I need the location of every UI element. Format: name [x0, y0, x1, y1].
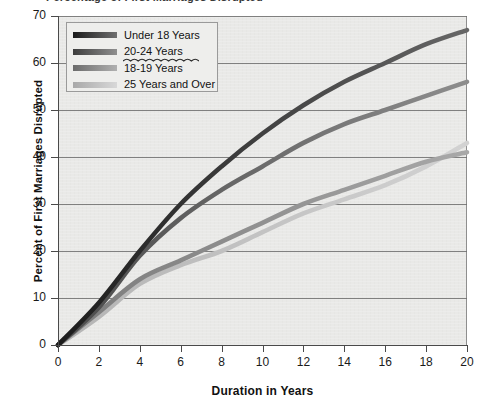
legend-label: 25 Years and Over	[124, 79, 215, 90]
chart-legend: Under 18 Years20-24 Years18-19 Years25 Y…	[66, 22, 218, 92]
x-tick-label: 18	[411, 355, 441, 369]
x-tick-mark	[303, 346, 304, 352]
x-tick-label: 2	[84, 355, 114, 369]
x-tick-label: 8	[207, 355, 237, 369]
x-tick-mark	[99, 346, 100, 352]
chart-figure: Percentage of First Marriages Disrupted	[0, 0, 481, 411]
x-tick-mark	[181, 346, 182, 352]
figure-title-clipped: Percentage of First Marriages Disrupted	[46, 0, 306, 3]
legend-label: Under 18 Years	[124, 30, 200, 41]
y-tick-mark	[51, 110, 58, 111]
x-tick-mark	[58, 346, 59, 352]
x-tick-label: 14	[329, 355, 359, 369]
legend-swatch	[73, 49, 117, 55]
x-tick-mark	[222, 346, 223, 352]
x-tick-label: 6	[166, 355, 196, 369]
legend-item: Under 18 Years	[73, 27, 211, 44]
series-line-2	[58, 152, 467, 345]
legend-item: 25 Years and Over	[73, 77, 211, 94]
legend-swatch	[73, 65, 117, 71]
legend-item: 18-19 Years	[73, 60, 211, 77]
y-tick-mark	[51, 251, 58, 252]
y-tick-mark	[51, 298, 58, 299]
legend-swatch	[73, 32, 117, 38]
x-tick-label: 4	[125, 355, 155, 369]
y-axis-title: Percent of First Marriages Disrupted	[32, 56, 44, 306]
x-tick-label: 16	[370, 355, 400, 369]
y-tick-label: 0	[16, 337, 46, 351]
x-tick-mark	[344, 346, 345, 352]
y-tick-mark	[51, 204, 58, 205]
y-tick-label: 70	[16, 8, 46, 22]
legend-label: 18-19 Years	[124, 63, 183, 74]
x-tick-label: 10	[248, 355, 278, 369]
series-line-1	[58, 82, 467, 345]
y-axis-line	[58, 16, 59, 346]
y-tick-mark	[51, 16, 58, 17]
x-tick-mark	[263, 346, 264, 352]
x-tick-label: 0	[43, 355, 73, 369]
x-axis-title: Duration in Years	[58, 384, 467, 398]
x-tick-mark	[385, 346, 386, 352]
y-tick-mark	[51, 345, 58, 346]
y-tick-mark	[51, 63, 58, 64]
x-tick-label: 12	[288, 355, 318, 369]
series-line-3	[58, 143, 467, 345]
legend-item: 20-24 Years	[73, 44, 211, 61]
legend-swatch	[73, 82, 117, 88]
y-tick-mark	[51, 157, 58, 158]
x-tick-mark	[467, 346, 468, 352]
x-tick-label: 20	[452, 355, 481, 369]
x-tick-mark	[140, 346, 141, 352]
x-tick-mark	[426, 346, 427, 352]
